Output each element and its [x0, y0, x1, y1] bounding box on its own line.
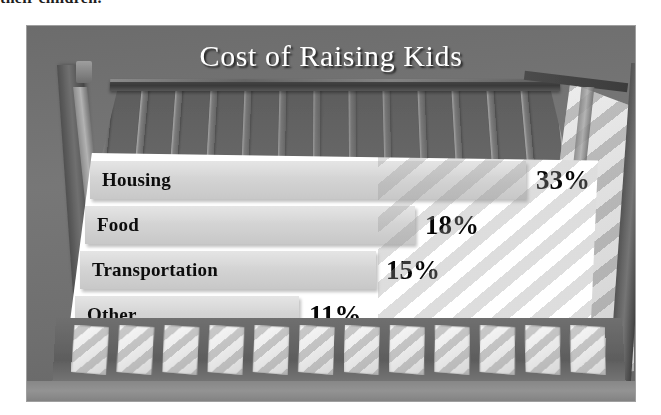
- bar-label: Food: [97, 214, 139, 236]
- crib-front-gap: [253, 325, 290, 375]
- crib-front-gap: [162, 325, 199, 375]
- bar-row: Housing33%: [90, 161, 590, 199]
- crib-front-gap: [71, 325, 109, 375]
- bar-value-label: 33%: [536, 167, 590, 194]
- chart-panel: Housing33%Food18%Transportation15%Other1…: [68, 153, 598, 343]
- bar: Housing: [90, 161, 526, 199]
- document-text-line: their children.: [0, 0, 102, 7]
- bar-label: Housing: [102, 169, 171, 191]
- crib-front-gap: [343, 325, 379, 375]
- bar-value-label: 18%: [425, 212, 479, 239]
- crib-front-gap: [569, 325, 607, 375]
- infographic-figure: Housing33%Food18%Transportation15%Other1…: [26, 25, 636, 402]
- crib-front-gap: [298, 325, 334, 375]
- bar-label: Transportation: [92, 259, 218, 281]
- bar-rows-container: Housing33%Food18%Transportation15%Other1…: [68, 153, 598, 343]
- crib-front-gap: [389, 325, 426, 375]
- clipped-document-text: their children.: [0, 0, 661, 13]
- bar: Food: [85, 206, 415, 244]
- crib-front-gap: [524, 325, 562, 375]
- crib-front-gap: [207, 325, 244, 375]
- bar-row: Transportation15%: [80, 251, 440, 289]
- crib-front-gap: [434, 325, 471, 375]
- page-canvas: their children. Housing33%Food18%Transpo…: [0, 0, 661, 415]
- bar-value-label: 15%: [386, 257, 440, 284]
- crib-front-slat-gaps: [71, 325, 607, 375]
- bar-row: Food18%: [85, 206, 479, 244]
- bar: Transportation: [80, 251, 376, 289]
- crib-front-gap: [116, 325, 154, 375]
- crib-top-rail: [110, 79, 560, 91]
- floor-strip: [26, 381, 636, 402]
- crib-front-gap: [479, 325, 516, 375]
- chart-title: Cost of Raising Kids: [26, 39, 636, 73]
